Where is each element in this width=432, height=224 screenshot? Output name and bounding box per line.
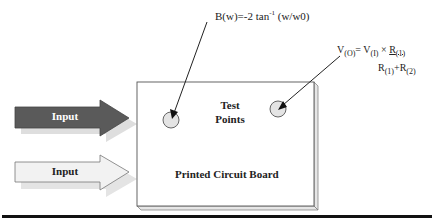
voltage-denominator: R(1)+R(2): [378, 62, 416, 73]
vo-sub: (O): [344, 49, 355, 58]
input-label-dark: Input: [40, 110, 90, 122]
board-label: Printed Circuit Board: [175, 168, 279, 180]
bottom-rule: [2, 215, 432, 218]
den-sub2: (2): [406, 67, 415, 76]
numerator: R(1): [389, 44, 405, 55]
den-r1: R: [378, 62, 385, 73]
num-sub: (1): [396, 49, 405, 58]
board-side-edge: [314, 82, 318, 210]
times-sign: ×: [379, 44, 390, 55]
num-r: R: [389, 44, 396, 55]
phase-prefix: B(w)=-2 tan: [215, 10, 269, 22]
phase-formula: B(w)=-2 tan-1 (w/w0): [215, 10, 310, 22]
test-points-line2: Points: [205, 112, 255, 126]
test-points-line1: Test: [205, 98, 255, 112]
vi-symbol: = V: [355, 44, 370, 55]
den-sub1: (1): [385, 67, 394, 76]
phase-suffix: (w/w0): [275, 10, 310, 22]
test-points-label: Test Points: [205, 98, 255, 126]
den-plus-r2: +R: [394, 62, 406, 73]
input-label-light: Input: [40, 165, 90, 177]
vi-sub: (I): [371, 49, 379, 58]
test-point-left: [163, 112, 179, 128]
voltage-formula: V(O)= V(I) × R(1): [337, 44, 405, 55]
board-bottom-edge: [137, 206, 318, 210]
